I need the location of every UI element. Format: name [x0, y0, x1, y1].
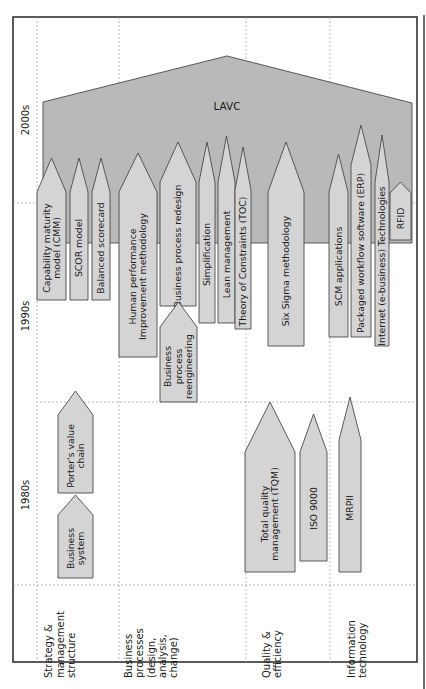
- arrow-label: Businesssystem: [65, 528, 86, 569]
- category-label: Strategy &managementstructure: [43, 611, 76, 678]
- era-label-1990s-line: 1990s: [20, 301, 31, 332]
- arrow-label-line: chain: [75, 443, 86, 468]
- arrow-iso9000: ISO 9000: [300, 414, 327, 561]
- arrow-bp-reengineering: Businessprocessreengineering: [160, 302, 197, 402]
- arrow-label: Human performanceImprovement methodology: [127, 213, 148, 340]
- arrow-label-line: Packaged workflow software (ERP): [355, 173, 366, 333]
- arrow-label-line: Balanced scorecard: [95, 202, 106, 293]
- category-label-line: change): [168, 637, 179, 678]
- category-label: Businessprocesses(design,analysis,change…: [123, 628, 179, 678]
- arrow-label-line: Business: [162, 346, 173, 387]
- category-label-line: Quality &: [261, 631, 272, 678]
- category-label-line: structure: [66, 633, 77, 678]
- arrow-label: SCM applications: [333, 227, 344, 307]
- arrow-hpi: Human performanceImprovement methodology: [119, 153, 157, 357]
- arrow-label: MRPII: [344, 495, 355, 521]
- arrow-label-line: Porter's value: [65, 424, 76, 488]
- arrow-label-line: Simplification: [201, 223, 212, 286]
- arrow-label: Lean management: [221, 210, 232, 298]
- arrow-label: Balanced scorecard: [95, 202, 106, 293]
- arrow-label-line: Six Sigma methodology: [280, 215, 291, 326]
- arrow-label-line: RFID: [395, 208, 406, 230]
- arrow-rfid: RFID: [390, 182, 411, 240]
- era-label-2000s: 2000s: [20, 105, 31, 136]
- arrow-label-line: Improvement methodology: [137, 213, 148, 340]
- arrow-mrpii: MRPII: [339, 397, 361, 572]
- arrows-layer: Capability maturitymodel (CMM)SCOR model…: [37, 125, 411, 578]
- category-labels: Strategy &managementstructureBusinesspro…: [43, 611, 368, 678]
- arrow-label-line: process: [173, 348, 184, 384]
- category-label-line: efficiency: [272, 630, 283, 678]
- category-label-line: Information: [346, 620, 357, 678]
- arrow-label-line: Capability maturity: [41, 203, 52, 293]
- era-label-1990s: 1990s: [20, 301, 31, 332]
- arrow-simplification: Simplification: [199, 142, 215, 323]
- era-label-2000s-line: 2000s: [20, 105, 31, 136]
- arrow-erp: Packaged workflow software (ERP): [351, 125, 371, 337]
- category-label: Quality &efficiency: [261, 630, 283, 678]
- arrow-label-line: Lean management: [221, 210, 232, 298]
- arrow-shape: [339, 397, 361, 572]
- arrow-label-line: Business process redesign: [172, 184, 183, 307]
- category-label-line: Strategy &: [43, 624, 54, 678]
- arrow-label: Six Sigma methodology: [280, 215, 291, 326]
- arrow-label: Business process redesign: [172, 184, 183, 307]
- arrow-label-line: Total quality: [259, 485, 270, 543]
- category-label-line: Business: [123, 634, 134, 678]
- arrow-label-line: SCM applications: [333, 227, 344, 307]
- era-label-1980s-line: 1980s: [20, 480, 31, 511]
- arrow-tqm: Total qualitymanagement (TQM): [245, 402, 295, 572]
- arrow-label: RFID: [395, 208, 406, 230]
- arrow-porters-value-chain: Porter's valuechain: [58, 391, 93, 493]
- arrow-label: SCOR model: [73, 219, 84, 277]
- arrow-label: Internet (e-business) Technologies: [376, 186, 387, 346]
- arrow-label: Simplification: [201, 223, 212, 286]
- arrow-label-line: reengineering: [183, 334, 194, 399]
- arrow-label-line: model (CMM): [51, 217, 62, 279]
- arrow-label-line: ISO 9000: [308, 487, 319, 530]
- arrow-label-line: management (TQM): [269, 467, 280, 561]
- category-label: Informationtechnology: [346, 620, 368, 678]
- category-label-line: processes: [134, 628, 145, 678]
- arrow-label-line: Theory of Constraints (TOC): [237, 197, 248, 328]
- arrow-label-line: MRPII: [344, 495, 355, 521]
- era-labels: 2000s1990s1980s: [20, 105, 31, 511]
- category-label-line: analysis,: [157, 634, 168, 678]
- arrow-label-line: Internet (e-business) Technologies: [376, 186, 387, 346]
- arrow-label-line: Business: [65, 528, 76, 569]
- arrow-label-line: SCOR model: [73, 219, 84, 277]
- arrow-label-line: Human performance: [127, 228, 138, 324]
- timeline-diagram: LAVC Capability maturitymodel (CMM)SCOR …: [0, 0, 426, 689]
- arrow-internet: Internet (e-business) Technologies: [375, 135, 389, 346]
- arrow-label: ISO 9000: [308, 487, 319, 530]
- lavc-label: LAVC: [213, 100, 240, 112]
- category-label-line: management: [55, 611, 66, 678]
- arrow-label-line: system: [75, 532, 86, 566]
- arrow-scm: SCM applications: [329, 154, 348, 337]
- category-label-line: technology: [357, 622, 368, 678]
- era-label-1980s: 1980s: [20, 480, 31, 511]
- arrow-label: Packaged workflow software (ERP): [355, 173, 366, 333]
- arrow-label: Theory of Constraints (TOC): [237, 197, 248, 328]
- category-label-line: (design,: [146, 638, 157, 678]
- arrow-business-system: Businesssystem: [58, 495, 93, 578]
